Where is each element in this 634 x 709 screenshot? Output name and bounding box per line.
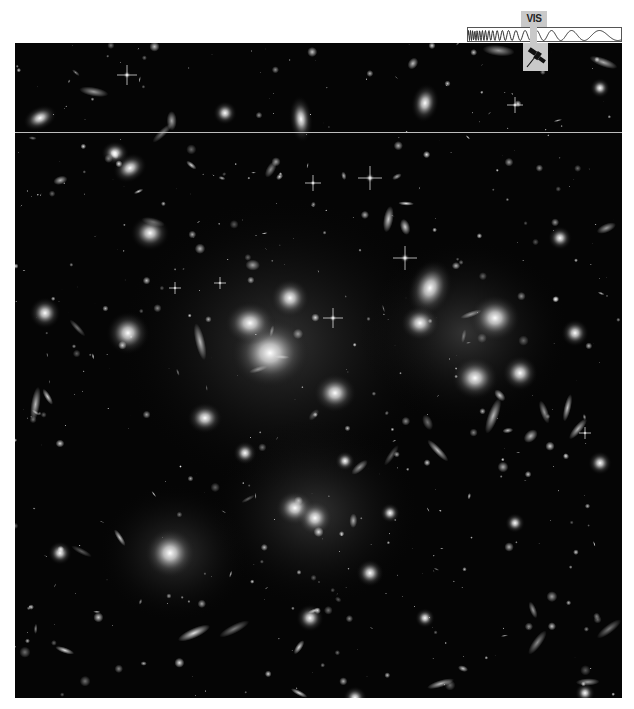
wavelength-indicator: VIS [467, 0, 623, 75]
galaxy-cluster-field [15, 43, 622, 698]
sine-wave-icon [468, 29, 621, 42]
wavelength-marker [530, 27, 537, 43]
horizontal-scan-line [15, 132, 622, 133]
wavelength-spectrum-bar [467, 27, 622, 42]
satellite-icon [523, 43, 548, 71]
band-label: VIS [521, 11, 547, 27]
astronomical-image [15, 43, 622, 698]
